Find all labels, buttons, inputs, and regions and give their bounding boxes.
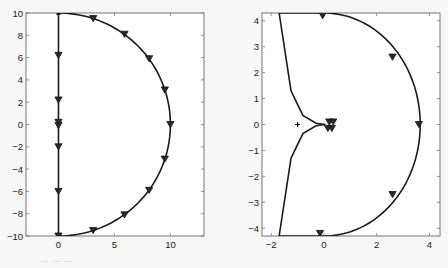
y-tick-label: 4 <box>254 15 259 26</box>
figure: 0510−10−8−6−4−20246810 −2024−4−3−2−10123… <box>0 0 448 268</box>
x-tick-label: −2 <box>266 239 277 250</box>
axes-box <box>262 13 440 236</box>
figure-caption: … … … <box>40 254 440 268</box>
right-plot-nyquist-diagram: −2024−4−3−2−101234 <box>248 13 440 250</box>
y-tick-label: 6 <box>18 52 23 63</box>
y-tick-label: 3 <box>254 41 259 52</box>
x-tick-label: 5 <box>112 239 117 250</box>
y-tick-label: −4 <box>12 164 23 175</box>
x-tick-label: 0 <box>56 239 61 250</box>
axes-box <box>26 13 204 236</box>
square-marker-icon <box>56 11 60 15</box>
x-tick-label: 2 <box>374 239 379 250</box>
y-tick-label: 8 <box>18 30 23 41</box>
y-tick-label: 4 <box>18 74 23 85</box>
y-tick-label: −2 <box>248 171 259 182</box>
y-tick-label: −1 <box>248 145 259 156</box>
y-tick-label: −4 <box>248 223 259 234</box>
y-tick-label: −2 <box>12 141 23 152</box>
y-tick-label: 2 <box>254 67 259 78</box>
y-tick-label: −3 <box>248 197 259 208</box>
left-plot-nyquist-contour: 0510−10−8−6−4−20246810 <box>7 8 204 251</box>
x-tick-label: 10 <box>165 239 176 250</box>
y-tick-label: 10 <box>12 8 23 19</box>
y-tick-label: −10 <box>7 231 23 242</box>
x-tick-label: 4 <box>427 239 432 250</box>
y-tick-label: 2 <box>18 97 23 108</box>
x-tick-label: 0 <box>321 239 326 250</box>
y-tick-label: 0 <box>18 119 23 130</box>
y-tick-label: −6 <box>12 186 23 197</box>
y-tick-label: 1 <box>254 93 259 104</box>
y-tick-label: 0 <box>254 119 259 130</box>
y-tick-label: −8 <box>12 208 23 219</box>
